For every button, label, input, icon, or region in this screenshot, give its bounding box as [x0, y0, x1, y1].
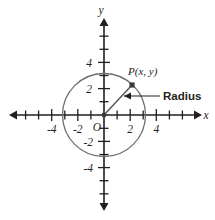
y-tick-label-2: 2 [86, 83, 92, 95]
origin-label: O [93, 121, 102, 133]
graph-canvas: -4 -2 2 4 4 2 -2 -4 O x y P(x, y) Radius [0, 0, 215, 220]
x-axis-arrow-right [194, 111, 202, 120]
origin-dot [102, 113, 107, 118]
y-axis-arrow-up [100, 18, 109, 26]
y-tick-label--2: -2 [83, 136, 93, 148]
x-tick-label--4: -4 [47, 123, 57, 135]
radius-segment [104, 85, 132, 115]
point-p-label: P(x, y) [127, 65, 158, 78]
x-tick-label-4: 4 [153, 123, 159, 135]
x-axis-label: x [202, 109, 209, 121]
callout-arrow-head [124, 93, 131, 100]
coordinate-plane-figure: -4 -2 2 4 4 2 -2 -4 O x y P(x, y) Radius [0, 0, 215, 220]
x-tick-label-2: 2 [127, 123, 133, 135]
y-tick-label--4: -4 [83, 162, 93, 174]
y-axis-arrow-down [100, 203, 109, 211]
x-axis-arrow-left [9, 111, 17, 120]
point-p-marker [129, 82, 134, 87]
x-tick-label--2: -2 [73, 123, 83, 135]
y-tick-label-4: 4 [86, 57, 92, 69]
radius-callout-label: Radius [163, 90, 201, 102]
y-axis-label: y [97, 4, 104, 17]
